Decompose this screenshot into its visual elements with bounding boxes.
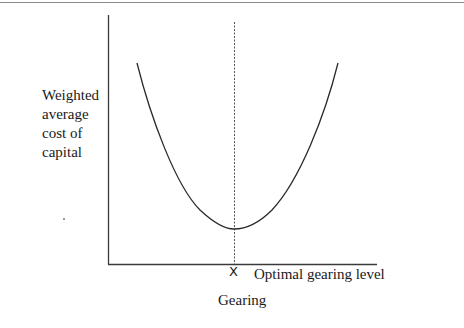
wacc-curve	[137, 63, 338, 229]
y-label-line-4: capital	[42, 143, 99, 162]
y-label-line-2: average	[42, 105, 99, 124]
y-axis-label: Weighted average cost of capital	[42, 86, 99, 162]
x-axis-label: Gearing	[218, 292, 266, 309]
optimal-gearing-label: Optimal gearing level	[254, 266, 385, 283]
speck-mark	[63, 218, 65, 220]
y-label-line-3: cost of	[42, 124, 99, 143]
y-label-line-1: Weighted	[42, 86, 99, 105]
optimal-x-marker: X	[229, 264, 238, 279]
